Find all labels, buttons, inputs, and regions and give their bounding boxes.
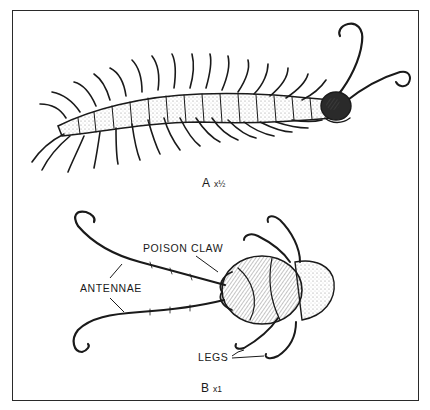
panel-a-centipede [32,24,410,172]
label-antennae: ANTENNAE [80,282,142,294]
panel-a-scale: x½ [214,179,225,189]
antennae-leader-upper [110,264,122,278]
legs-leader-lower [232,356,264,358]
poison-claw-leader [196,256,218,272]
panel-b-scale: x1 [213,384,222,394]
caption-panel-b: Bx1 [201,381,222,395]
centipede-illustration [0,0,430,410]
panel-b-letter: B [201,381,209,395]
label-poison-claw: POISON CLAW [143,242,223,254]
panel-a-letter: A [202,176,210,190]
caption-panel-a: Ax½ [202,176,225,190]
label-legs: LEGS [198,351,228,363]
antennae-leader-lower [110,298,124,312]
legs-leader-upper [232,350,244,356]
